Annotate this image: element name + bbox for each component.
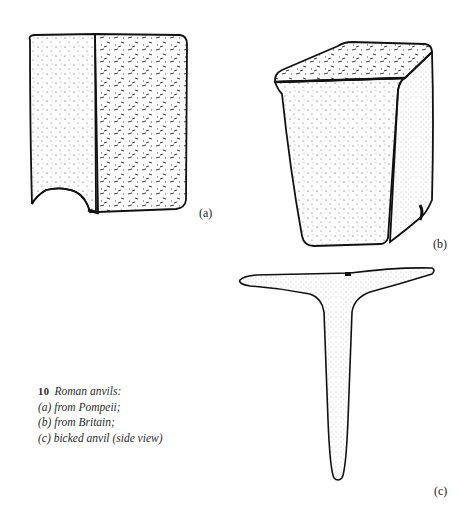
- caption-title: Roman anvils:: [55, 385, 122, 397]
- caption-line-a: (a) from Pompeii;: [38, 400, 163, 416]
- figure-number: 10: [38, 386, 50, 397]
- anvil-a-drawing: [30, 34, 188, 213]
- anvil-c-drawing: [240, 268, 434, 480]
- label-c: (c): [434, 484, 447, 499]
- figure-caption: 10Roman anvils: (a) from Pompeii; (b) fr…: [38, 384, 163, 446]
- caption-line-c: (c) bicked anvil (side view): [38, 431, 163, 447]
- label-a: (a): [199, 206, 212, 221]
- label-b: (b): [433, 237, 447, 252]
- caption-line-b: (b) from Britain;: [38, 415, 163, 431]
- anvil-b-drawing: [275, 42, 433, 246]
